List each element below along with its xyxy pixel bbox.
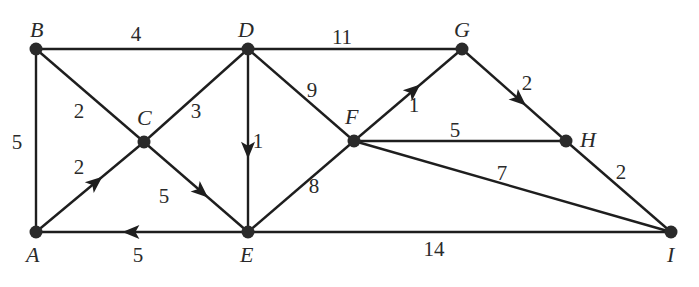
labels-layer: 5422351511981572214ABCDEFGHI [12, 17, 676, 267]
node-a [30, 226, 43, 239]
node-e [242, 226, 255, 239]
node-label: G [454, 17, 470, 42]
node-label: B [30, 17, 43, 42]
edge-weight: 1 [409, 93, 420, 117]
edge-weight: 2 [616, 160, 627, 184]
node-i [665, 226, 678, 239]
node-h [560, 135, 573, 148]
edge-weight: 2 [74, 99, 85, 123]
node-label: I [666, 242, 676, 267]
node-g [456, 43, 469, 56]
edge-weight: 8 [309, 174, 320, 198]
edge-g-h [462, 49, 566, 141]
edge-weight: 5 [12, 130, 23, 154]
edge-d-c [144, 49, 248, 142]
edge-weight: 7 [497, 161, 508, 185]
node-label: A [24, 242, 40, 267]
graph-diagram: 5422351511981572214ABCDEFGHI [0, 0, 699, 287]
edge-b-c [36, 49, 144, 142]
node-label: E [239, 242, 254, 267]
node-label: D [237, 17, 254, 42]
node-b [30, 43, 43, 56]
edge-e-f [248, 141, 354, 232]
edge-weight: 4 [131, 22, 142, 46]
node-label: C [137, 105, 152, 130]
edge-weight: 2 [522, 71, 533, 95]
edge-d-f [248, 49, 354, 141]
edge-weight: 1 [253, 129, 264, 153]
edge-weight: 2 [74, 155, 85, 179]
edge-weight: 5 [159, 184, 170, 208]
edge-weight: 5 [133, 243, 144, 267]
edge-weight: 9 [307, 78, 318, 102]
arrows-layer [85, 79, 531, 239]
edge-a-c [36, 142, 144, 232]
node-f [348, 135, 361, 148]
edge-h-i [566, 141, 671, 232]
node-label: F [344, 104, 359, 129]
edge-weight: 5 [450, 118, 461, 142]
node-c [138, 136, 151, 149]
node-d [242, 43, 255, 56]
edge-weight: 3 [191, 99, 202, 123]
edge-f-i [354, 141, 671, 232]
node-label: H [579, 127, 597, 152]
edge-weight: 14 [424, 237, 446, 261]
edge-weight: 11 [332, 25, 352, 49]
